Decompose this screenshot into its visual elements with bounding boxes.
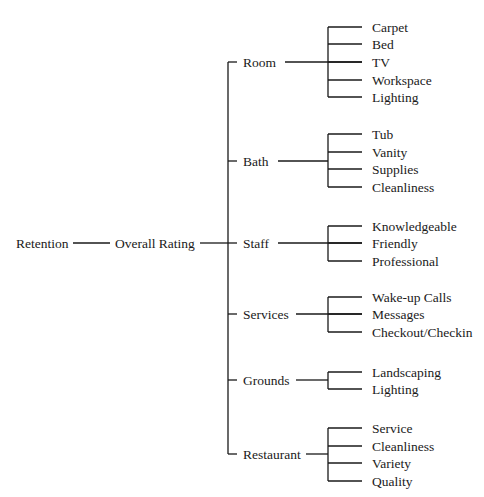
node-leaf-room-bed: Bed [372, 37, 394, 52]
node-leaf-staff-professional: Professional [372, 254, 439, 269]
node-overall-rating: Overall Rating [115, 236, 195, 251]
node-category-grounds: Grounds [243, 373, 290, 388]
node-leaf-restaurant-cleanliness: Cleanliness [372, 439, 434, 454]
root-branch: Retention Overall Rating [16, 236, 228, 251]
node-category-room: Room [243, 55, 277, 70]
node-leaf-services-messages: Messages [372, 307, 425, 322]
node-leaf-room-carpet: Carpet [372, 20, 408, 35]
node-category-services: Services [243, 307, 289, 322]
node-leaf-staff-knowledgeable: Knowledgeable [372, 219, 457, 234]
node-leaf-services-checkout-checkin: Checkout/Checkin [372, 325, 473, 340]
node-leaf-bath-tub: Tub [372, 127, 394, 142]
node-category-bath: Bath [243, 154, 269, 169]
node-leaf-services-wake-up-calls: Wake-up Calls [372, 290, 452, 305]
node-leaf-restaurant-quality: Quality [372, 474, 413, 489]
category-branches: RoomCarpetBedTVWorkspaceLightingBathTubV… [228, 20, 473, 489]
hierarchy-tree-diagram: Retention Overall Rating RoomCarpetBedTV… [0, 0, 484, 497]
node-leaf-grounds-lighting: Lighting [372, 382, 419, 397]
node-leaf-staff-friendly: Friendly [372, 236, 418, 251]
node-leaf-room-workspace: Workspace [372, 73, 432, 88]
node-leaf-room-tv: TV [372, 55, 390, 70]
node-retention: Retention [16, 236, 69, 251]
node-category-staff: Staff [243, 236, 270, 251]
node-category-restaurant: Restaurant [243, 447, 301, 462]
node-leaf-bath-cleanliness: Cleanliness [372, 180, 434, 195]
node-leaf-bath-supplies: Supplies [372, 162, 419, 177]
node-leaf-bath-vanity: Vanity [372, 145, 407, 160]
node-leaf-room-lighting: Lighting [372, 90, 419, 105]
node-leaf-restaurant-service: Service [372, 421, 412, 436]
node-leaf-restaurant-variety: Variety [372, 456, 411, 471]
node-leaf-grounds-landscaping: Landscaping [372, 365, 441, 380]
